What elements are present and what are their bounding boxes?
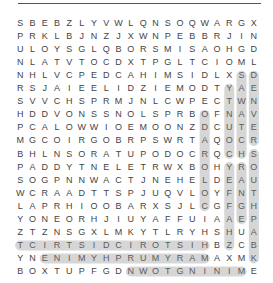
grid-cell[interactable]: Y bbox=[223, 161, 235, 174]
grid-cell[interactable]: U bbox=[14, 43, 26, 56]
grid-cell[interactable]: O bbox=[174, 148, 186, 161]
grid-cell[interactable]: L bbox=[186, 187, 198, 200]
grid-cell[interactable]: B bbox=[51, 17, 63, 30]
grid-cell[interactable]: E bbox=[39, 17, 51, 30]
grid-cell[interactable]: I bbox=[186, 69, 198, 82]
grid-cell[interactable]: X bbox=[125, 30, 137, 43]
grid-cell[interactable]: N bbox=[248, 95, 260, 108]
grid-cell[interactable]: O bbox=[125, 108, 137, 121]
grid-cell[interactable]: N bbox=[51, 252, 63, 265]
grid-cell[interactable]: K bbox=[248, 252, 260, 265]
grid-cell[interactable]: N bbox=[137, 95, 149, 108]
grid-cell[interactable]: M bbox=[174, 82, 186, 95]
grid-cell[interactable]: B bbox=[248, 239, 260, 252]
grid-cell[interactable]: I bbox=[63, 252, 75, 265]
grid-cell[interactable]: V bbox=[248, 108, 260, 121]
grid-cell[interactable]: E bbox=[88, 82, 100, 95]
grid-cell[interactable]: A bbox=[149, 213, 161, 226]
grid-cell[interactable]: Y bbox=[137, 226, 149, 239]
grid-cell[interactable]: O bbox=[26, 213, 38, 226]
grid-cell[interactable]: I bbox=[174, 43, 186, 56]
grid-cell[interactable]: R bbox=[100, 95, 112, 108]
grid-cell[interactable]: O bbox=[63, 121, 75, 134]
grid-cell[interactable]: Z bbox=[63, 17, 75, 30]
grid-cell[interactable]: A bbox=[51, 187, 63, 200]
grid-cell[interactable]: C bbox=[26, 121, 38, 134]
grid-cell[interactable]: N bbox=[88, 30, 100, 43]
grid-cell[interactable]: E bbox=[186, 174, 198, 187]
grid-cell[interactable]: O bbox=[149, 121, 161, 134]
grid-cell[interactable]: A bbox=[26, 161, 38, 174]
grid-cell[interactable]: V bbox=[39, 95, 51, 108]
grid-cell[interactable]: O bbox=[149, 148, 161, 161]
grid-cell[interactable]: M bbox=[199, 252, 211, 265]
grid-cell[interactable]: S bbox=[100, 108, 112, 121]
grid-cell[interactable]: E bbox=[199, 95, 211, 108]
grid-cell[interactable]: T bbox=[63, 239, 75, 252]
grid-cell[interactable]: Y bbox=[14, 252, 26, 265]
grid-cell[interactable]: D bbox=[39, 108, 51, 121]
grid-cell[interactable]: A bbox=[100, 148, 112, 161]
grid-cell[interactable]: S bbox=[14, 17, 26, 30]
grid-cell[interactable]: N bbox=[88, 161, 100, 174]
grid-cell[interactable]: J bbox=[137, 174, 149, 187]
grid-cell[interactable]: Q bbox=[211, 148, 223, 161]
grid-cell[interactable]: M bbox=[112, 95, 124, 108]
grid-cell[interactable]: I bbox=[149, 82, 161, 95]
grid-cell[interactable]: E bbox=[125, 161, 137, 174]
grid-cell[interactable]: S bbox=[63, 148, 75, 161]
grid-cell[interactable]: T bbox=[248, 187, 260, 200]
grid-cell[interactable]: K bbox=[125, 226, 137, 239]
grid-cell[interactable]: O bbox=[63, 213, 75, 226]
grid-cell[interactable]: R bbox=[125, 252, 137, 265]
grid-cell[interactable]: S bbox=[76, 239, 88, 252]
grid-cell[interactable]: Y bbox=[186, 226, 198, 239]
grid-cell[interactable]: T bbox=[137, 56, 149, 69]
grid-cell[interactable]: L bbox=[39, 148, 51, 161]
grid-cell[interactable]: X bbox=[149, 200, 161, 213]
grid-cell[interactable]: P bbox=[39, 200, 51, 213]
grid-cell[interactable]: S bbox=[174, 69, 186, 82]
grid-cell[interactable]: S bbox=[149, 43, 161, 56]
grid-cell[interactable]: D bbox=[39, 161, 51, 174]
grid-cell[interactable]: Z bbox=[100, 30, 112, 43]
grid-cell[interactable]: A bbox=[211, 17, 223, 30]
grid-cell[interactable]: E bbox=[39, 252, 51, 265]
grid-cell[interactable]: X bbox=[223, 69, 235, 82]
grid-cell[interactable]: L bbox=[162, 226, 174, 239]
grid-cell[interactable]: T bbox=[186, 134, 198, 147]
grid-cell[interactable]: W bbox=[88, 174, 100, 187]
grid-cell[interactable]: O bbox=[174, 17, 186, 30]
grid-cell[interactable]: J bbox=[137, 187, 149, 200]
grid-cell[interactable]: C bbox=[199, 56, 211, 69]
grid-cell[interactable]: N bbox=[51, 226, 63, 239]
grid-cell[interactable]: J bbox=[223, 30, 235, 43]
grid-cell[interactable]: D bbox=[248, 69, 260, 82]
grid-cell[interactable]: N bbox=[248, 30, 260, 43]
grid-cell[interactable]: R bbox=[51, 200, 63, 213]
grid-cell[interactable]: W bbox=[14, 187, 26, 200]
grid-cell[interactable]: Y bbox=[137, 213, 149, 226]
grid-cell[interactable]: R bbox=[125, 134, 137, 147]
grid-cell[interactable]: B bbox=[63, 30, 75, 43]
grid-cell[interactable]: R bbox=[26, 30, 38, 43]
grid-cell[interactable]: C bbox=[39, 134, 51, 147]
grid-cell[interactable]: U bbox=[149, 187, 161, 200]
grid-cell[interactable]: I bbox=[88, 239, 100, 252]
grid-cell[interactable]: O bbox=[149, 239, 161, 252]
grid-cell[interactable]: F bbox=[162, 213, 174, 226]
grid-cell[interactable]: T bbox=[76, 56, 88, 69]
grid-cell[interactable]: B bbox=[112, 200, 124, 213]
grid-cell[interactable]: V bbox=[174, 187, 186, 200]
grid-cell[interactable]: N bbox=[76, 108, 88, 121]
grid-cell[interactable]: I bbox=[235, 30, 247, 43]
grid-cell[interactable]: G bbox=[162, 56, 174, 69]
grid-cell[interactable]: B bbox=[199, 30, 211, 43]
grid-cell[interactable]: T bbox=[100, 187, 112, 200]
grid-cell[interactable]: L bbox=[51, 30, 63, 43]
grid-cell[interactable]: C bbox=[211, 121, 223, 134]
grid-cell[interactable]: L bbox=[76, 17, 88, 30]
grid-cell[interactable]: W bbox=[174, 95, 186, 108]
grid-cell[interactable]: A bbox=[248, 226, 260, 239]
grid-cell[interactable]: U bbox=[223, 121, 235, 134]
